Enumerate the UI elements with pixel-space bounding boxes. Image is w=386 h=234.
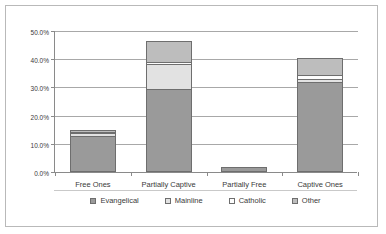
legend-item-catholic[interactable]: Catholic: [229, 196, 266, 205]
legend-separator: [54, 190, 357, 191]
legend-item-other[interactable]: Other: [292, 196, 321, 205]
x-axis-tick: [207, 172, 208, 176]
y-axis-tick-label: 0.0%: [34, 170, 49, 177]
chart-frame: 0.0%10.0%20.0%30.0%40.0%50.0% Free OnesP…: [5, 5, 378, 227]
y-axis-tick-label: 10.0%: [31, 141, 49, 148]
x-axis-layer: Free OnesPartially CaptivePartially Free…: [55, 172, 358, 196]
bar-segment-other[interactable]: [147, 42, 191, 63]
bar-slot: [207, 31, 283, 172]
legend-label: Catholic: [239, 196, 266, 205]
x-axis-tick: [282, 172, 283, 176]
legend-swatch-icon: [165, 198, 171, 204]
legend-label: Mainline: [175, 196, 203, 205]
bar-slot: [55, 31, 131, 172]
chart-legend: EvangelicalMainlineCatholicOther: [54, 196, 357, 205]
legend-label: Evangelical: [100, 196, 138, 205]
chart-plot-wrapper: 0.0%10.0%20.0%30.0%40.0%50.0% Free OnesP…: [6, 6, 379, 228]
legend-swatch-icon: [90, 198, 96, 204]
bar-segment-evangelical[interactable]: [222, 168, 266, 171]
bar-segment-evangelical[interactable]: [298, 83, 342, 171]
x-axis-label: Partially Free: [222, 180, 266, 189]
x-axis-tick: [55, 172, 56, 176]
legend-swatch-icon: [292, 198, 298, 204]
bar-slot: [131, 31, 207, 172]
y-axis-tick-label: 50.0%: [31, 29, 49, 36]
x-axis-label: Partially Captive: [142, 180, 196, 189]
bar-segment-evangelical[interactable]: [71, 137, 115, 171]
y-axis-tick-label: 20.0%: [31, 113, 49, 120]
legend-swatch-icon: [229, 198, 235, 204]
stacked-bar[interactable]: [70, 130, 116, 172]
legend-item-mainline[interactable]: Mainline: [165, 196, 203, 205]
x-axis-label: Captive Ones: [297, 180, 342, 189]
stacked-bar[interactable]: [297, 58, 343, 172]
x-axis-label: Free Ones: [75, 180, 110, 189]
bar-segment-evangelical[interactable]: [147, 90, 191, 171]
stacked-bar[interactable]: [146, 41, 192, 172]
bar-segment-mainline[interactable]: [147, 65, 191, 90]
x-axis-tick: [131, 172, 132, 176]
legend-label: Other: [302, 196, 321, 205]
y-axis-tick-label: 30.0%: [31, 85, 49, 92]
y-axis-tick-label: 40.0%: [31, 57, 49, 64]
legend-item-evangelical[interactable]: Evangelical: [90, 196, 138, 205]
x-axis-tick: [358, 172, 359, 176]
bar-segment-other[interactable]: [298, 59, 342, 76]
bar-slot: [282, 31, 358, 172]
plot-area: 0.0%10.0%20.0%30.0%40.0%50.0% Free OnesP…: [54, 32, 357, 173]
